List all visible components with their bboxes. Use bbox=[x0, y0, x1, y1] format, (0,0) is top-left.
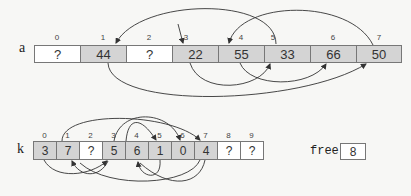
arrow-1-to-7 bbox=[108, 63, 366, 97]
arrow-3-to-5 bbox=[190, 63, 270, 85]
head-arrow bbox=[178, 24, 183, 43]
arrow-5-to-1 bbox=[116, 9, 276, 44]
arrow-k3-to-1 bbox=[72, 161, 108, 174]
arrow-k5-to-4 bbox=[138, 160, 160, 175]
arrow-k4-to-5 bbox=[126, 122, 156, 141]
arrow-4-to-6 bbox=[240, 63, 326, 82]
pointer-arrows bbox=[0, 0, 411, 196]
